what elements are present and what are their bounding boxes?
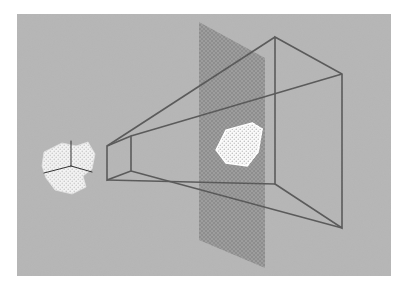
figure-root	[0, 0, 410, 289]
scan-artifact-text	[6, 0, 256, 8]
perspective-projection-diagram	[17, 14, 391, 276]
scan-grain-overlay	[17, 14, 391, 276]
figure-panel	[17, 14, 391, 276]
